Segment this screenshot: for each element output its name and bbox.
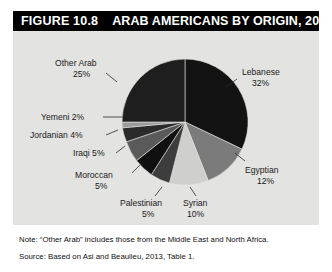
leader-line-syrian bbox=[190, 187, 196, 196]
figure-notes: Note: “Other Arab” includes those from t… bbox=[13, 225, 319, 272]
pie-label-other-arab-pct: 25% bbox=[73, 69, 91, 79]
leader-line-iraqi bbox=[116, 146, 125, 153]
pie-label-moroccan-pct: 5% bbox=[95, 181, 108, 191]
figure-root: FIGURE 10.8 ARAB AMERICANS BY ORIGIN, 20… bbox=[0, 0, 332, 272]
pie-label-palestinian-pct: 5% bbox=[142, 209, 155, 219]
figure-number-label: FIGURE 10.8 bbox=[21, 14, 98, 28]
leader-line-other-arab bbox=[106, 73, 117, 82]
pie-label-jordanian: Jordanian 4% bbox=[30, 130, 83, 140]
pie-slice-other-arab[interactable] bbox=[122, 59, 185, 122]
pie-label-lebanese-name: Lebanese bbox=[242, 67, 280, 77]
pie-label-palestinian-name: Palestinian bbox=[120, 198, 162, 208]
pie-chart: Other Arab 25% Lebanese 32% Egyptian 12%… bbox=[13, 31, 319, 225]
pie-label-syrian-name: Syrian bbox=[183, 198, 208, 208]
figure-title: ARAB AMERICANS BY ORIGIN, 2010 bbox=[112, 14, 332, 28]
pie-label-other-arab-name: Other Arab bbox=[55, 58, 97, 68]
pie-label-lebanese-pct: 32% bbox=[252, 78, 270, 88]
pie-label-syrian-pct: 10% bbox=[187, 209, 205, 219]
pie-slices bbox=[122, 59, 248, 185]
pie-label-iraqi: Iraqi 5% bbox=[73, 148, 105, 158]
pie-label-yemeni: Yemeni 2% bbox=[41, 112, 85, 122]
leader-line-moroccan bbox=[132, 165, 140, 173]
figure-note: Note: “Other Arab” includes those from t… bbox=[19, 235, 269, 244]
pie-label-moroccan-name: Moroccan bbox=[75, 170, 113, 180]
leader-line-jordanian bbox=[106, 130, 118, 135]
pie-label-egyptian-pct: 12% bbox=[257, 176, 275, 186]
leader-line-palestinian bbox=[155, 187, 162, 196]
pie-label-egyptian-name: Egyptian bbox=[245, 165, 279, 175]
chart-panel: Other Arab 25% Lebanese 32% Egyptian 12%… bbox=[13, 31, 319, 225]
figure-title-bar: FIGURE 10.8 ARAB AMERICANS BY ORIGIN, 20… bbox=[13, 11, 319, 31]
figure-source: Source: Based on Asi and Beaulieu, 2013,… bbox=[19, 252, 194, 261]
